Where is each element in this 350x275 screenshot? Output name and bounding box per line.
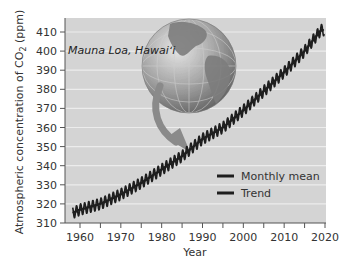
y-tick-label: 400 <box>36 45 57 58</box>
y-axis-title: Atmospheric concentration of CO2 (ppm) <box>13 10 28 235</box>
y-tick-label: 320 <box>36 198 57 211</box>
y-tick-label: 330 <box>36 179 57 192</box>
x-tick-label: 2020 <box>311 231 339 244</box>
x-ticks: 1960197019801990200020102020 <box>66 223 339 244</box>
y-tick-label: 340 <box>36 160 57 173</box>
legend-label-monthly-mean: Monthly mean <box>241 170 320 183</box>
x-tick-label: 1960 <box>66 231 94 244</box>
y-tick-label: 350 <box>36 141 57 154</box>
x-axis-title: Year <box>182 246 207 259</box>
x-tick-label: 1990 <box>189 231 217 244</box>
legend-label-trend: Trend <box>240 187 271 200</box>
y-tick-label: 390 <box>36 64 57 77</box>
y-ticks: 310320330340350360370380390400410 <box>36 26 65 230</box>
y-tick-label: 360 <box>36 122 57 135</box>
location-annotation: Mauna Loa, Hawaiʻi <box>68 44 175 57</box>
x-tick-label: 1980 <box>148 231 176 244</box>
y-tick-label: 310 <box>36 217 57 230</box>
co2-chart: 310320330340350360370380390400410 196019… <box>0 0 350 275</box>
y-tick-label: 410 <box>36 26 57 39</box>
x-tick-label: 2000 <box>229 231 257 244</box>
x-tick-label: 1970 <box>107 231 135 244</box>
y-tick-label: 370 <box>36 102 57 115</box>
x-tick-label: 2010 <box>270 231 298 244</box>
y-tick-label: 380 <box>36 83 57 96</box>
